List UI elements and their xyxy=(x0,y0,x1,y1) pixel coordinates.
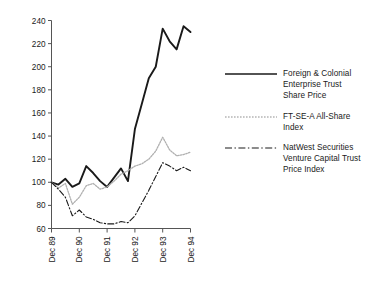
y-tick-label: 60 xyxy=(36,225,46,234)
chart-legend: Foreign & Colonial Enterprise Trust Shar… xyxy=(225,68,386,185)
x-tick-label: Dec 89 xyxy=(48,236,57,262)
legend-item: Foreign & Colonial Enterprise Trust Shar… xyxy=(225,68,386,102)
x-tick-label: Dec 93 xyxy=(159,236,168,262)
legend-item: NatWest Securities Venture Capital Trust… xyxy=(225,142,386,176)
legend-swatch-dotted-icon xyxy=(225,111,277,122)
y-tick-label: 120 xyxy=(32,155,46,164)
y-tick-label: 180 xyxy=(32,86,46,95)
y-tick-label: 240 xyxy=(32,17,46,26)
x-tick-label: Dec 94 xyxy=(187,236,196,262)
series-line-fc-enterprise-trust xyxy=(52,26,191,187)
y-tick-label: 140 xyxy=(32,132,46,141)
y-tick-label: 200 xyxy=(32,63,46,72)
y-tick-label: 220 xyxy=(32,40,46,49)
legend-label-ftse-all-share: FT-SE-A All-Share Index xyxy=(283,111,350,133)
legend-label-fc-enterprise-trust: Foreign & Colonial Enterprise Trust Shar… xyxy=(283,68,351,102)
x-tick-label: Dec 92 xyxy=(131,236,140,262)
x-tick-label: Dec 90 xyxy=(75,236,84,262)
series-line-ftse-all-share xyxy=(52,137,191,204)
series-line-natwest-vct xyxy=(52,163,191,224)
chart-figure: 6080100120140160180200220240Dec 89Dec 90… xyxy=(0,0,386,291)
y-tick-label: 160 xyxy=(32,109,46,118)
x-tick-label: Dec 91 xyxy=(103,236,112,262)
legend-swatch-solid-icon xyxy=(225,68,277,79)
legend-label-natwest-vct: NatWest Securities Venture Capital Trust… xyxy=(283,142,361,176)
y-tick-label: 100 xyxy=(32,178,46,187)
legend-swatch-dashdot-icon xyxy=(225,142,277,153)
legend-item: FT-SE-A All-Share Index xyxy=(225,111,386,133)
y-tick-label: 80 xyxy=(36,201,46,210)
